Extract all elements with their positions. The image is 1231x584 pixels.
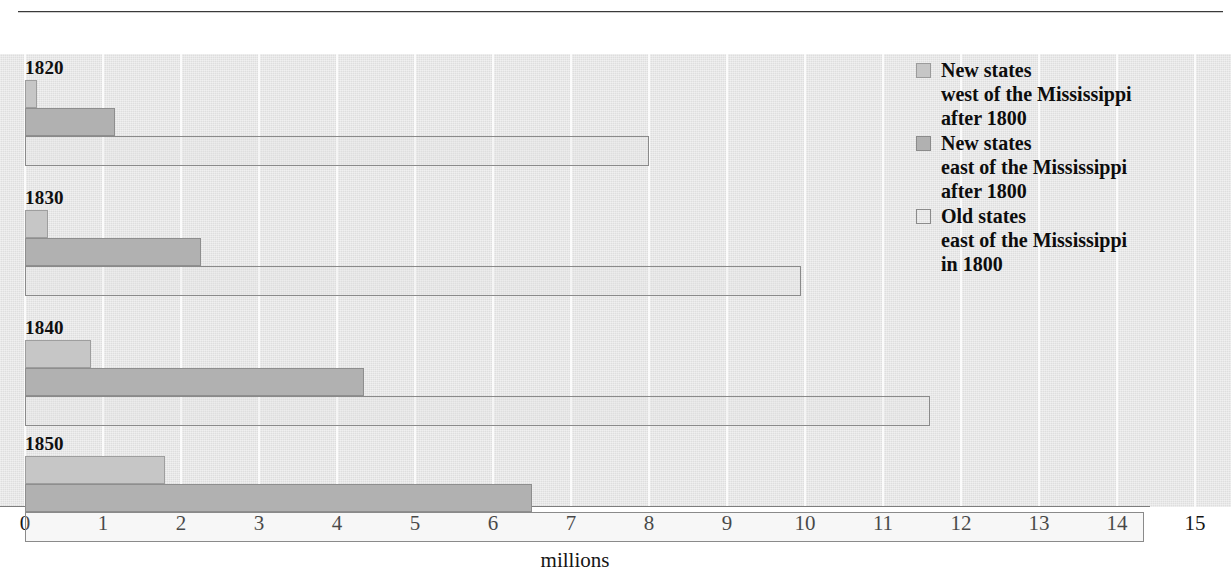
- legend-label-2: Old states east of the Mississippi in 18…: [941, 204, 1226, 276]
- bar-1820-east: [25, 108, 115, 136]
- chart-legend: New states west of the Mississippi after…: [916, 58, 1226, 277]
- bar-1850-east: [25, 484, 532, 512]
- bar-1840-east: [25, 368, 364, 396]
- year-label-1820: 1820: [25, 58, 64, 77]
- bar-1850-west: [25, 456, 165, 484]
- bar-1820-old: [25, 136, 649, 166]
- gridline-11: [882, 54, 884, 507]
- legend-label-1: New states east of the Mississippi after…: [941, 131, 1226, 203]
- legend-swatch-icon-1: [916, 136, 931, 151]
- year-label-1850: 1850: [25, 434, 64, 453]
- bar-1830-old: [25, 266, 801, 296]
- bar-1850-old: [25, 512, 1144, 542]
- x-axis-title: millions: [0, 548, 1150, 573]
- legend-swatch-icon-0: [916, 63, 931, 78]
- x-tick-15: 15: [1185, 512, 1206, 535]
- bar-1840-west: [25, 340, 91, 368]
- bar-1840-old: [25, 396, 930, 426]
- population-bar-chart-figure: 0123456789101112131415 millions New stat…: [0, 0, 1231, 584]
- legend-entry-2[interactable]: Old states east of the Mississippi in 18…: [916, 204, 1226, 276]
- year-label-1830: 1830: [25, 188, 64, 207]
- bar-1830-west: [25, 210, 48, 238]
- bar-1820-west: [25, 80, 37, 108]
- legend-label-0: New states west of the Mississippi after…: [941, 58, 1226, 130]
- legend-entry-1[interactable]: New states east of the Mississippi after…: [916, 131, 1226, 203]
- page-header-rule: [18, 11, 1223, 12]
- bar-1830-east: [25, 238, 201, 266]
- year-label-1840: 1840: [25, 318, 64, 337]
- legend-entry-0[interactable]: New states west of the Mississippi after…: [916, 58, 1226, 130]
- gridline-10: [804, 54, 806, 507]
- legend-swatch-icon-2: [916, 209, 931, 224]
